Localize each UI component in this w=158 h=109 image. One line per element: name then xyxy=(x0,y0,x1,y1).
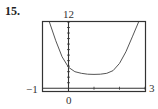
function-plot xyxy=(0,0,158,109)
x-max-label: 3 xyxy=(149,83,155,94)
axes xyxy=(43,22,145,91)
x-origin-label: 0 xyxy=(66,95,72,106)
viewing-window-frame xyxy=(43,22,146,92)
y-max-label: 12 xyxy=(63,9,74,20)
function-curve xyxy=(49,22,138,74)
x-min-label: −1 xyxy=(26,84,38,95)
